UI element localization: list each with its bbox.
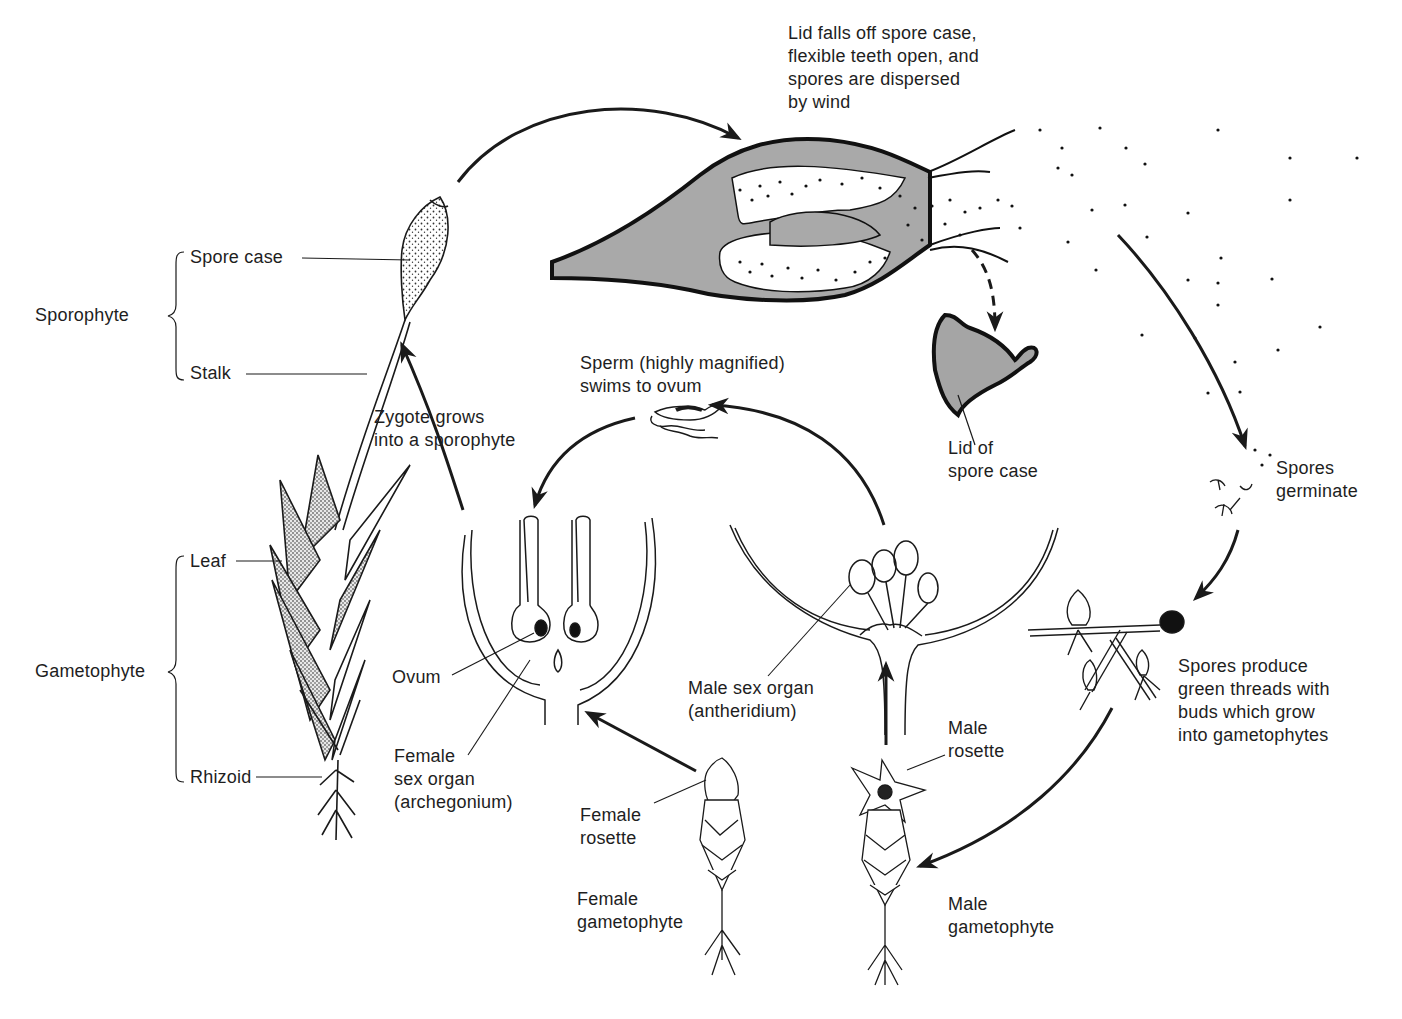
- male-gametophyte-line-1: Male: [948, 893, 1054, 916]
- lid-label: Lid of spore case: [948, 437, 1038, 483]
- female-rosette-line-2: rosette: [580, 827, 641, 850]
- female-sex-organ-label: Female sex organ (archegonium): [394, 745, 513, 814]
- dispersal-line-4: by wind: [788, 91, 979, 114]
- spores-produce-label: Spores produce green threads with buds w…: [1178, 655, 1330, 747]
- female-sex-organ-line-3: (archegonium): [394, 791, 513, 814]
- spore-capsule-section: [552, 126, 1359, 466]
- male-sex-organ-line-1: Male sex organ: [688, 677, 814, 700]
- female-sex-organ-line-2: sex organ: [394, 768, 513, 791]
- ovum-label: Ovum: [392, 666, 441, 689]
- sperm-line-1: Sperm (highly magnified): [580, 352, 785, 375]
- male-sex-organ-line-2: (antheridium): [688, 700, 814, 723]
- male-rosette-line-1: Male: [948, 717, 1004, 740]
- rhizoid-label: Rhizoid: [190, 766, 251, 789]
- spores-produce-line-3: buds which grow: [1178, 701, 1330, 724]
- sperm-line-2: swims to ovum: [580, 375, 785, 398]
- female-gametophyte-label: Female gametophyte: [577, 888, 683, 934]
- female-rosette-label: Female rosette: [580, 804, 641, 850]
- female-gametophyte-line-2: gametophyte: [577, 911, 683, 934]
- dispersal-line-1: Lid falls off spore case,: [788, 22, 979, 45]
- capsule-lid: [934, 315, 1037, 445]
- sporophyte-label: Sporophyte: [35, 304, 129, 327]
- lid-line-1: Lid of: [948, 437, 1038, 460]
- zygote-label: Zygote grows into a sporophyte: [374, 406, 516, 452]
- male-rosette-label: Male rosette: [948, 717, 1004, 763]
- gametophyte-label: Gametophyte: [35, 660, 145, 683]
- spores-germinate-line-2: germinate: [1276, 480, 1358, 503]
- spores-produce-line-4: into gametophytes: [1178, 724, 1330, 747]
- sperm-label: Sperm (highly magnified) swims to ovum: [580, 352, 785, 398]
- male-gametophyte-line-2: gametophyte: [948, 916, 1054, 939]
- moss-plant-illustration: [270, 197, 448, 840]
- sperm-illustration: [651, 404, 722, 438]
- spores-germinate-label: Spores germinate: [1276, 457, 1358, 503]
- lid-line-2: spore case: [948, 460, 1038, 483]
- spores-produce-line-2: green threads with: [1178, 678, 1330, 701]
- moss-life-cycle-diagram: [0, 0, 1402, 1019]
- spore-case-label: Spore case: [190, 246, 283, 269]
- female-gametophyte-line-1: Female: [577, 888, 683, 911]
- dispersal-label: Lid falls off spore case, flexible teeth…: [788, 22, 979, 114]
- male-sex-organ-label: Male sex organ (antheridium): [688, 677, 814, 723]
- female-rosette-line-1: Female: [580, 804, 641, 827]
- protonema-illustration: [1028, 590, 1184, 710]
- zygote-line-2: into a sporophyte: [374, 429, 516, 452]
- archegonium-section: [462, 516, 655, 725]
- germinating-spores: [1210, 480, 1252, 516]
- leaf-label: Leaf: [190, 550, 226, 573]
- zygote-line-1: Zygote grows: [374, 406, 516, 429]
- male-rosette-line-2: rosette: [948, 740, 1004, 763]
- female-gametophyte-illustration: [700, 758, 745, 975]
- spores-germinate-line-1: Spores: [1276, 457, 1358, 480]
- spores-produce-line-1: Spores produce: [1178, 655, 1330, 678]
- male-gametophyte-label: Male gametophyte: [948, 893, 1054, 939]
- female-sex-organ-line-1: Female: [394, 745, 513, 768]
- dispersal-line-3: spores are dispersed: [788, 68, 979, 91]
- male-gametophyte-illustration: [852, 760, 925, 985]
- dispersal-line-2: flexible teeth open, and: [788, 45, 979, 68]
- stalk-label: Stalk: [190, 362, 231, 385]
